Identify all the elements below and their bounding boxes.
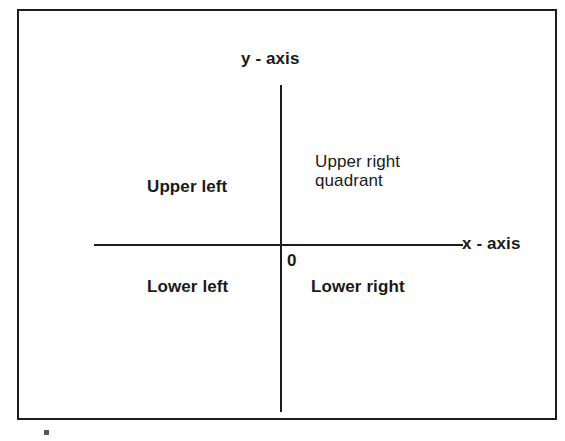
- x-axis-line: [94, 244, 463, 246]
- quadrant-label-upper-right: Upper right quadrant: [315, 152, 400, 190]
- x-axis-label: x - axis: [462, 234, 520, 253]
- origin-label: 0: [287, 251, 297, 270]
- diagram-frame: y - axis x - axis 0 Upper left Upper rig…: [17, 9, 557, 420]
- quadrant-label-lower-left: Lower left: [147, 277, 228, 296]
- scan-artifact-mark: [44, 430, 49, 435]
- quadrant-label-upper-left: Upper left: [147, 177, 227, 196]
- quadrant-label-lower-right: Lower right: [311, 277, 405, 296]
- y-axis-line: [280, 85, 282, 412]
- y-axis-label: y - axis: [241, 49, 299, 68]
